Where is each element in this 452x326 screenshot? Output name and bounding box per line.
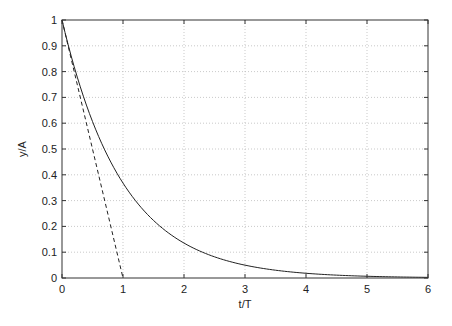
x-tick-label: 0 xyxy=(59,283,65,295)
y-tick-labels: 00.10.20.30.40.50.60.70.80.91 xyxy=(42,14,57,284)
x-tick-label: 3 xyxy=(242,283,248,295)
y-axis-label: y/A xyxy=(16,140,28,157)
y-tick-label: 0 xyxy=(51,272,57,284)
x-tick-labels: 0123456 xyxy=(59,283,431,295)
y-tick-label: 1 xyxy=(51,14,57,26)
y-tick-label: 0.9 xyxy=(42,40,57,52)
y-tick-label: 0.3 xyxy=(42,195,57,207)
chart: 0123456 00.10.20.30.40.50.60.70.80.91 t/… xyxy=(0,0,452,326)
x-axis-label: t/T xyxy=(239,298,252,310)
x-tick-label: 5 xyxy=(364,283,370,295)
y-tick-label: 0.5 xyxy=(42,143,57,155)
y-tick-label: 0.1 xyxy=(42,246,57,258)
x-tick-label: 1 xyxy=(120,283,126,295)
y-tick-label: 0.4 xyxy=(42,169,57,181)
x-tick-label: 4 xyxy=(303,283,309,295)
grid-lines xyxy=(62,20,428,278)
y-tick-label: 0.2 xyxy=(42,220,57,232)
y-tick-label: 0.8 xyxy=(42,66,57,78)
y-tick-label: 0.6 xyxy=(42,117,57,129)
x-tick-label: 2 xyxy=(181,283,187,295)
x-tick-label: 6 xyxy=(425,283,431,295)
y-tick-label: 0.7 xyxy=(42,91,57,103)
